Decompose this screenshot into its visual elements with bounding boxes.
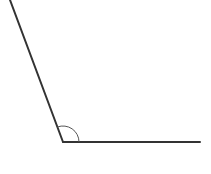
angle-diagram	[0, 0, 211, 174]
left-ray	[10, 0, 63, 142]
angle-figure	[0, 0, 211, 174]
